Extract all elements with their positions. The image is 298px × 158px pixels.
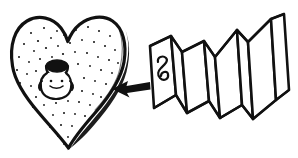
- figure-eye-left: [50, 80, 53, 83]
- figure-cap: [46, 60, 68, 72]
- figure-body: [41, 73, 72, 99]
- illustration-canvas: [0, 0, 298, 158]
- illustration-root: Heart with figure and accordion-folded p…: [0, 0, 298, 158]
- figure-eye-right: [61, 80, 64, 83]
